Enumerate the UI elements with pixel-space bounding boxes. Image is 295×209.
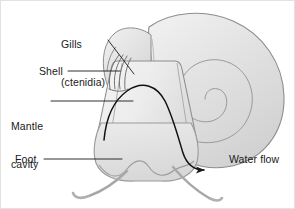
- label-gills-line1: Gills: [61, 38, 105, 51]
- label-gills: Gills (ctenidia): [61, 13, 105, 113]
- label-mantle-cavity: Mantle cavity: [11, 95, 43, 195]
- label-foot: Foot: [15, 153, 36, 166]
- snail-anatomy-figure: Gills (ctenidia) Shell Mantle cavity Foo…: [0, 0, 295, 209]
- label-mantle-line1: Mantle: [11, 120, 43, 133]
- label-shell: Shell: [39, 65, 63, 78]
- diagram-canvas: [1, 1, 295, 209]
- label-water-flow: Water flow: [229, 153, 279, 166]
- label-gills-line2: (ctenidia): [61, 76, 105, 89]
